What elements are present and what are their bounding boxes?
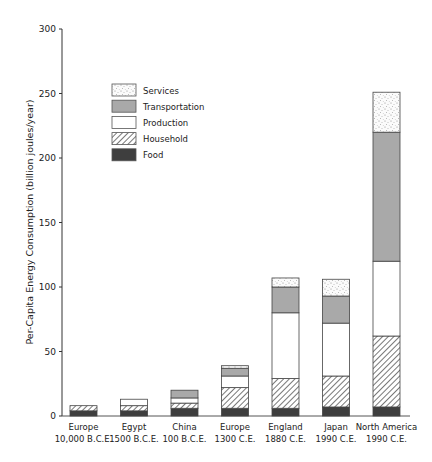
bar-segment-production <box>272 313 299 379</box>
bar-segment-transportation <box>272 287 299 313</box>
category-label: England <box>268 422 303 432</box>
category-label: North America <box>356 422 418 432</box>
stacked-bar-chart: 050100150200250300 Europe10,000 B.C.E.Eg… <box>0 0 432 462</box>
bar-segment-transportation <box>222 368 249 376</box>
y-axis-label: Per-Capita Energy Consumption (billion j… <box>24 99 35 344</box>
legend-swatch <box>112 84 136 96</box>
y-tick-label: 100 <box>39 282 56 292</box>
legend-label: Services <box>143 86 179 96</box>
legend-item-household: Household <box>112 133 188 145</box>
bar-segment-production <box>222 376 249 388</box>
bar-stack <box>373 92 400 416</box>
legend-swatch <box>112 100 136 112</box>
bar-segment-services <box>373 92 400 132</box>
bar-segment-household <box>323 376 350 407</box>
bar-stack <box>70 406 97 416</box>
legend-swatch <box>112 116 136 128</box>
y-tick-label: 150 <box>39 218 56 228</box>
y-tick-label: 300 <box>39 24 56 34</box>
x-axis-labels: Europe10,000 B.C.E.Egypt1500 B.C.E.China… <box>55 422 418 444</box>
category-label: Japan <box>323 422 348 432</box>
bar-segment-services <box>272 278 299 287</box>
bar-stack <box>272 278 299 416</box>
category-date-label: 100 B.C.E. <box>162 434 206 444</box>
bar-segment-food <box>171 408 198 416</box>
legend: ServicesTransportationProductionHousehol… <box>112 84 204 161</box>
bar-segment-food <box>272 408 299 416</box>
bar-segment-household <box>222 388 249 409</box>
category-label: Europe <box>69 422 99 432</box>
bar-segment-household <box>373 336 400 407</box>
legend-item-transportation: Transportation <box>112 100 204 112</box>
category-date-label: 1880 C.E. <box>265 434 306 444</box>
category-date-label: 1990 C.E. <box>315 434 356 444</box>
bar-segment-production <box>373 261 400 336</box>
bar-stack <box>222 366 249 416</box>
category-date-label: 1300 C.E. <box>214 434 255 444</box>
category-label: China <box>172 422 196 432</box>
legend-label: Food <box>143 150 163 160</box>
category-label: Egypt <box>122 422 147 432</box>
y-tick-label: 250 <box>39 89 56 99</box>
y-tick-label: 50 <box>45 347 57 357</box>
legend-item-services: Services <box>112 84 179 96</box>
legend-label: Transportation <box>142 102 204 112</box>
bar-segment-production <box>171 398 198 403</box>
y-tick-label: 200 <box>39 153 56 163</box>
bar-segment-services <box>222 366 249 369</box>
bar-stack <box>171 390 198 416</box>
bar-segment-household <box>121 406 148 411</box>
bar-segment-food <box>373 407 400 416</box>
bar-segment-production <box>121 399 148 405</box>
category-date-label: 1990 C.E. <box>366 434 407 444</box>
bar-segment-services <box>323 279 350 296</box>
bar-stack <box>323 279 350 416</box>
legend-item-food: Food <box>112 149 163 161</box>
y-tick-label: 0 <box>50 411 56 421</box>
bar-segment-transportation <box>171 390 198 398</box>
legend-swatch <box>112 149 136 161</box>
bar-segment-production <box>323 323 350 376</box>
bar-segment-food <box>222 408 249 416</box>
bar-segment-food <box>323 407 350 416</box>
legend-label: Production <box>143 118 188 128</box>
bar-segment-transportation <box>323 296 350 323</box>
legend-swatch <box>112 133 136 145</box>
bar-segment-household <box>70 406 97 411</box>
legend-item-production: Production <box>112 116 188 128</box>
bar-segment-food <box>121 411 148 416</box>
bar-segment-household <box>272 379 299 409</box>
bar-segment-food <box>70 411 97 416</box>
category-label: Europe <box>220 422 250 432</box>
bar-segment-household <box>171 403 198 408</box>
category-date-label: 10,000 B.C.E. <box>55 434 113 444</box>
category-date-label: 1500 B.C.E. <box>109 434 159 444</box>
y-axis: 050100150200250300 <box>39 24 410 421</box>
bar-segment-transportation <box>373 132 400 261</box>
bar-stack <box>121 399 148 416</box>
legend-label: Household <box>143 134 188 144</box>
